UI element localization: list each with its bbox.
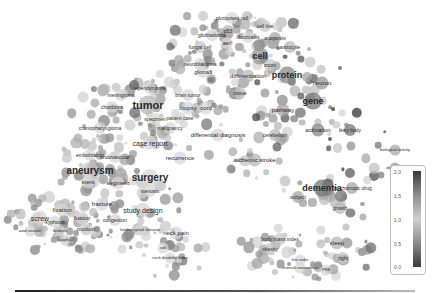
data-bubble — [118, 110, 122, 114]
term-label: brain tumor — [175, 93, 200, 98]
data-bubble — [196, 98, 201, 103]
data-bubble — [198, 11, 208, 21]
data-bubble — [263, 169, 269, 175]
data-bubble — [168, 187, 172, 191]
term-label: right — [338, 256, 348, 261]
data-bubble — [345, 168, 355, 178]
term-label: neuroblastoma — [183, 62, 216, 67]
term-label: axial rotation — [19, 229, 42, 233]
data-bubble — [360, 202, 364, 206]
data-bubble — [187, 145, 193, 151]
data-bubble — [302, 72, 312, 82]
term-label: glioma3 — [194, 70, 212, 75]
term-label: specimen — [144, 117, 165, 122]
data-bubble — [58, 179, 65, 186]
data-bubble — [377, 172, 384, 179]
term-label: tumor — [132, 100, 163, 111]
data-bubble — [333, 143, 343, 153]
term-label: pathway — [272, 107, 294, 113]
data-bubble — [274, 90, 278, 94]
colorbar-tick: 1.5 — [394, 193, 401, 199]
data-bubble — [160, 194, 170, 204]
term-label: lordosis — [53, 229, 67, 233]
data-bubble — [245, 62, 250, 67]
data-bubble — [201, 118, 213, 130]
data-bubble — [218, 123, 222, 127]
data-bubble — [328, 137, 332, 141]
data-bubble — [144, 243, 149, 248]
data-bubble — [176, 208, 181, 213]
term-label: chordoma — [101, 105, 123, 110]
data-bubble — [297, 56, 304, 63]
term-label: lewy body — [339, 128, 361, 133]
data-bubble — [62, 153, 72, 163]
term-label: surgery — [132, 173, 169, 183]
data-bubble — [383, 130, 387, 134]
data-bubble — [90, 98, 99, 107]
term-label: segment — [106, 180, 129, 186]
data-bubble — [307, 47, 311, 51]
term-label: aerf — [223, 41, 232, 46]
data-bubble — [296, 51, 301, 56]
term-label: neuron — [313, 80, 332, 86]
term-bubble-map: pluripotent cellcell lineglioblastomap53… — [0, 0, 432, 293]
data-bubble — [67, 108, 77, 118]
data-bubble — [183, 12, 191, 20]
data-bubble — [96, 219, 101, 224]
data-bubble — [212, 103, 217, 108]
data-bubble — [263, 121, 269, 127]
data-bubble — [261, 89, 270, 98]
data-bubble — [172, 192, 183, 203]
term-label: glioblastoma — [198, 33, 226, 38]
data-bubble — [326, 145, 332, 151]
data-bubble — [174, 143, 177, 146]
color-scale-bar — [413, 171, 421, 267]
data-bubble — [231, 78, 239, 86]
data-bubble — [15, 209, 26, 220]
data-bubble — [199, 24, 206, 31]
data-bubble — [194, 244, 203, 253]
data-bubble — [94, 226, 100, 232]
data-bubble — [288, 18, 298, 28]
data-bubble — [359, 213, 366, 220]
color-legend: 2.0 1.5 1.0 0.5 0.0 — [390, 165, 426, 275]
data-bubble — [116, 190, 123, 197]
term-label: recurrence — [166, 155, 195, 161]
data-bubble — [316, 276, 321, 281]
term-label: neck disability index — [152, 256, 188, 260]
data-bubble — [249, 14, 253, 18]
data-bubble — [165, 265, 169, 269]
term-label: fusion — [74, 215, 90, 221]
term-label: endovascular — [100, 155, 130, 160]
data-bubble — [36, 244, 40, 248]
term-label: biopsy — [179, 105, 196, 111]
data-bubble — [118, 245, 127, 254]
term-label: kyphosis — [45, 220, 64, 225]
data-bubble — [125, 120, 136, 131]
term-label: stenosis — [141, 189, 159, 194]
data-bubble — [342, 223, 349, 230]
data-bubble — [136, 241, 143, 248]
data-bubble — [290, 115, 298, 123]
data-bubble — [283, 54, 288, 59]
colorbar-tick: 0.5 — [394, 241, 401, 247]
data-bubble — [85, 244, 95, 254]
data-bubble — [91, 86, 97, 92]
term-label: sagittal — [59, 238, 72, 242]
data-bubble — [71, 201, 74, 204]
term-label: cord — [200, 105, 212, 111]
data-bubble — [295, 241, 302, 248]
data-bubble — [292, 276, 295, 279]
term-label: craniopharyngioma — [79, 126, 122, 131]
data-bubble — [172, 262, 180, 270]
data-bubble — [129, 245, 133, 249]
term-label: astrocyte — [280, 45, 300, 50]
term-label: fungal cell — [189, 45, 212, 50]
data-bubble — [226, 165, 235, 174]
data-bubble — [252, 113, 260, 121]
term-label: growth — [332, 206, 347, 211]
data-bubble — [361, 154, 370, 163]
term-label: body mass index — [261, 237, 299, 242]
data-bubble — [7, 209, 16, 218]
term-label: fracture — [92, 201, 112, 207]
